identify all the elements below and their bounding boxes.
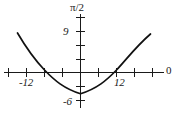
x-tick-label-neg12: -12 (19, 77, 33, 88)
x-axis-right-label: 0 (166, 65, 172, 76)
plot-area (0, 0, 179, 116)
parabola-figure: π/2 9 -6 -12 12 0 (0, 0, 179, 116)
y-axis-top-label: π/2 (70, 2, 84, 13)
y-tick-label-9: 9 (63, 26, 68, 37)
x-tick-label-12: 12 (114, 77, 125, 88)
y-tick-label-neg6: -6 (63, 96, 72, 107)
parabola-curve (18, 33, 151, 94)
